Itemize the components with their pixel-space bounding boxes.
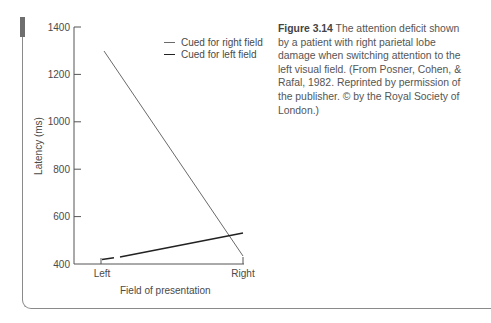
series-cued-right-field (104, 51, 243, 256)
y-axis-title: Latency (ms) (33, 117, 44, 175)
figure-number: Figure 3.14 (278, 23, 333, 34)
legend-swatch-right (164, 42, 175, 43)
y-ticks (74, 27, 81, 217)
svg-text:1400: 1400 (48, 22, 71, 33)
svg-text:600: 600 (53, 211, 70, 222)
x-tick-labels: Left Right (94, 268, 255, 279)
svg-text:1200: 1200 (48, 69, 71, 80)
figure-caption: Figure 3.14 The attention deficit shown … (278, 22, 468, 117)
caption-text: The attention deficit shown by a patient… (278, 23, 461, 116)
svg-text:800: 800 (53, 164, 70, 175)
svg-text:1000: 1000 (48, 116, 71, 127)
svg-text:Right: Right (231, 268, 255, 279)
legend-swatch-left (164, 54, 175, 55)
series-cued-left-field (102, 233, 243, 260)
legend-label: Cued for right field (181, 37, 263, 48)
y-tick-labels: 1400 1200 1000 800 600 400 (48, 22, 71, 270)
svg-text:Left: Left (94, 268, 111, 279)
x-axis-title: Field of presentation (120, 285, 211, 296)
svg-text:400: 400 (53, 259, 70, 270)
legend: Cued for right field Cued for left field (164, 36, 263, 60)
legend-item-left-field: Cued for left field (164, 48, 263, 60)
legend-item-right-field: Cued for right field (164, 36, 263, 48)
legend-label: Cued for left field (181, 49, 257, 60)
x-ticks (101, 257, 243, 264)
